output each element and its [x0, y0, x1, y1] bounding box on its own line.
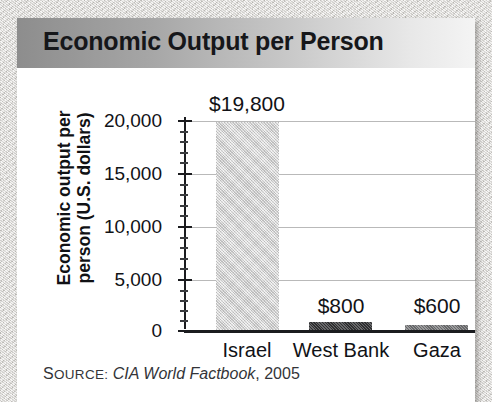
- y-axis-tick-labels: 20,000 15,000 10,000 5,000 0: [70, 68, 162, 402]
- x-axis-label-west-bank: West Bank: [291, 339, 391, 362]
- y-tick-label: 20,000: [70, 110, 162, 132]
- y-tick-label: 15,000: [70, 163, 162, 185]
- chart-card: Economic Output per Person Economic outp…: [17, 18, 475, 402]
- source-label-cap: S: [43, 365, 54, 382]
- chart-title-bar: Economic Output per Person: [17, 18, 475, 68]
- chart-plot-area: Economic output per person (U.S. dollars…: [17, 68, 475, 402]
- source-label: SOURCE:: [43, 367, 108, 382]
- y-tick-label: 0: [70, 320, 162, 342]
- x-axis-baseline: [184, 330, 475, 333]
- chart-axes: $19,800 $800 $600 Israel West Bank Gaza: [167, 68, 475, 402]
- y-tick-label: 5,000: [70, 269, 162, 291]
- source-line: SOURCE: CIA World Factbook, 2005: [43, 365, 300, 383]
- x-axis-label-israel: Israel: [197, 339, 297, 362]
- bar-value-label-israel: $19,800: [197, 92, 297, 116]
- bar-value-label-gaza: $600: [387, 294, 475, 318]
- bar-value-label-west-bank: $800: [291, 294, 391, 318]
- source-work-title: CIA World Factbook: [113, 365, 256, 382]
- source-label-rest: OURCE:: [54, 367, 108, 382]
- source-year: , 2005: [255, 365, 299, 382]
- bar-israel[interactable]: [216, 122, 279, 331]
- x-axis-label-gaza: Gaza: [387, 339, 475, 362]
- chart-title: Economic Output per Person: [43, 27, 384, 56]
- y-tick-label: 10,000: [70, 216, 162, 238]
